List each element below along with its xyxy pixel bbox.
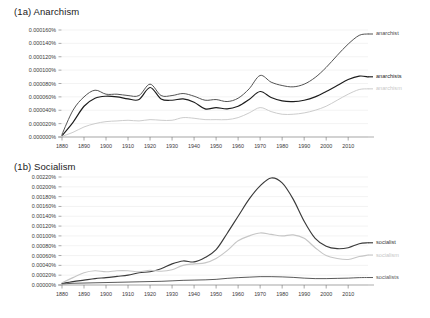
plot-area-socialism: 0.00000%0.00020%0.00040%0.00060%0.00080%… [0, 155, 430, 318]
x-axis-tick-label: 1940 [188, 291, 200, 297]
legend-label-anarchists: anarchists [376, 73, 402, 79]
y-axis-tick-label: 0.00020% [32, 272, 56, 278]
y-axis-tick-label: 0.00200% [32, 184, 56, 190]
series-line-anarchists [62, 76, 368, 136]
chart-svg-anarchism: 0.000000%0.000020%0.000040%0.000060%0.00… [0, 0, 430, 155]
x-axis-tick-label: 1950 [210, 143, 222, 149]
x-axis-tick-label: 1990 [298, 291, 310, 297]
x-axis-tick-label: 2010 [342, 291, 354, 297]
x-axis-tick-label: 1960 [232, 291, 244, 297]
y-axis-tick-label: 0.00060% [32, 253, 56, 259]
legend-label-socialists: socialists [376, 274, 399, 280]
x-axis-tick-label: 1980 [276, 143, 288, 149]
x-axis-tick-label: 1970 [254, 143, 266, 149]
y-axis-tick-label: 0.00160% [32, 203, 56, 209]
y-axis-tick-label: 0.000000% [29, 134, 56, 140]
x-axis-tick-label: 1950 [210, 291, 222, 297]
y-axis-tick-label: 0.00180% [32, 194, 56, 200]
y-axis-tick-label: 0.00040% [32, 262, 56, 268]
y-axis-tick-label: 0.00220% [32, 174, 56, 180]
y-axis-tick-label: 0.00100% [32, 233, 56, 239]
x-axis-tick-label: 1900 [100, 143, 112, 149]
x-axis-tick-label: 1920 [144, 143, 156, 149]
x-axis-tick-label: 1960 [232, 143, 244, 149]
x-axis-tick-label: 1910 [122, 291, 134, 297]
legend-label-socialist: socialist [376, 239, 396, 245]
x-axis-tick-label: 1970 [254, 291, 266, 297]
y-axis-tick-label: 0.00000% [32, 282, 56, 288]
x-axis-tick-label: 2000 [320, 291, 332, 297]
x-axis-tick-label: 1880 [56, 143, 68, 149]
y-axis-tick-label: 0.00140% [32, 213, 56, 219]
panel-socialism: (1b) Socialism 0.00000%0.00020%0.00040%0… [0, 155, 430, 318]
x-axis-tick-label: 2000 [320, 143, 332, 149]
y-axis-tick-label: 0.000040% [29, 107, 56, 113]
legend-label-anarchism: anarchism [376, 85, 402, 91]
plot-area-anarchism: 0.000000%0.000020%0.000040%0.000060%0.00… [0, 0, 430, 155]
x-axis-tick-label: 1910 [122, 143, 134, 149]
chart-svg-socialism: 0.00000%0.00020%0.00040%0.00060%0.00080%… [0, 155, 430, 318]
legend-label-socialism: socialism [376, 252, 399, 258]
x-axis-tick-label: 1880 [56, 291, 68, 297]
panel-anarchism: (1a) Anarchism 0.000000%0.000020%0.00004… [0, 0, 430, 155]
y-axis-tick-label: 0.00120% [32, 223, 56, 229]
x-axis-tick-label: 1900 [100, 291, 112, 297]
x-axis-tick-label: 1930 [166, 291, 178, 297]
x-axis-tick-label: 1920 [144, 291, 156, 297]
x-axis-tick-label: 1980 [276, 291, 288, 297]
y-axis-tick-label: 0.000020% [29, 121, 56, 127]
y-axis-tick-label: 0.000120% [29, 54, 56, 60]
y-axis-tick-label: 0.000140% [29, 40, 56, 46]
y-axis-tick-label: 0.00080% [32, 243, 56, 249]
x-axis-tick-label: 1890 [78, 291, 90, 297]
y-axis-tick-label: 0.000060% [29, 94, 56, 100]
series-line-socialist [62, 178, 368, 284]
x-axis-tick-label: 1940 [188, 143, 200, 149]
y-axis-tick-label: 0.000160% [29, 27, 56, 33]
y-axis-tick-label: 0.000080% [29, 81, 56, 87]
x-axis-tick-label: 1890 [78, 143, 90, 149]
legend-label-anarchist: anarchist [376, 30, 399, 36]
x-axis-tick-label: 2010 [342, 143, 354, 149]
y-axis-tick-label: 0.000100% [29, 67, 56, 73]
x-axis-tick-label: 1930 [166, 143, 178, 149]
x-axis-tick-label: 1990 [298, 143, 310, 149]
